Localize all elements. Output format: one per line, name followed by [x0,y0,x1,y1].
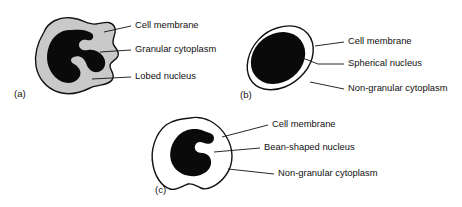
panel-a-label-lobed-nucleus: Lobed nucleus [135,70,196,81]
panel-b-leader-cell-membrane [315,42,344,46]
panel-b: Cell membrane Spherical nucleus Non-gran… [240,21,448,99]
cell-diagram-canvas: Cell membrane Granular cytoplasm Lobed n… [0,0,462,207]
panel-a-letter: (a) [14,88,26,99]
panel-c-label-cell-membrane: Cell membrane [272,118,336,129]
panel-b-label-cell-membrane: Cell membrane [348,35,412,46]
panel-c: Cell membrane Bean-shaped nucleus Non-gr… [152,117,378,194]
cell-diagram-figure: Cell membrane Granular cytoplasm Lobed n… [0,0,462,207]
panel-c-letter: (c) [155,184,166,195]
panel-a: Cell membrane Granular cytoplasm Lobed n… [14,18,216,99]
panel-b-label-spherical-nucleus: Spherical nucleus [348,57,422,68]
panel-a-label-cell-membrane: Cell membrane [135,19,199,30]
panel-c-leader-cell-membrane [222,125,268,137]
panel-c-label-bean-shaped-nucleus: Bean-shaped nucleus [264,141,355,152]
panel-a-label-granular-cytoplasm: Granular cytoplasm [135,43,216,54]
panel-b-letter: (b) [240,89,252,100]
panel-c-label-non-granular-cytoplasm: Non-granular cytoplasm [278,167,378,178]
panel-c-leader-non-granular-cytoplasm [228,169,274,174]
panel-b-label-non-granular-cytoplasm: Non-granular cytoplasm [348,82,448,93]
panel-b-leader-non-granular-cytoplasm [310,82,344,89]
